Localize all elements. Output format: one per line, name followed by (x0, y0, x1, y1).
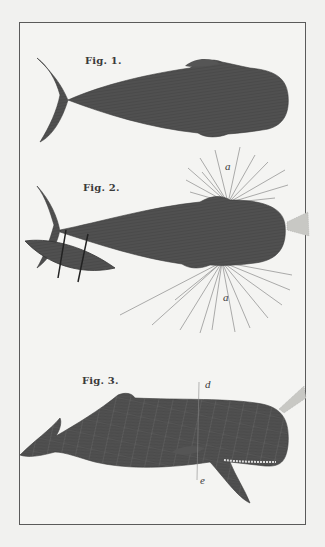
fig2-label: Fig. 2. (83, 182, 120, 193)
fig1-label: Fig. 1. (85, 55, 122, 66)
illustration-plate: Fig. 1. Fig. 2. Fig. 3. a a d e (0, 0, 325, 547)
fig2-spout (287, 212, 309, 236)
fig3-annotation-e: e (200, 474, 205, 486)
fig2-rays-top (186, 147, 288, 203)
whale-illustrations (0, 0, 325, 547)
fig2-annotation-a-top: a (225, 160, 231, 172)
fig3-whale (20, 382, 288, 503)
fig2-annotation-a-bottom: a (223, 291, 229, 303)
fig1-whale (37, 58, 288, 142)
fig3-annotation-d: d (205, 378, 211, 390)
fig2-rays-bottom (120, 262, 292, 333)
fig3-label: Fig. 3. (82, 375, 119, 386)
fig3-spout (279, 386, 306, 413)
